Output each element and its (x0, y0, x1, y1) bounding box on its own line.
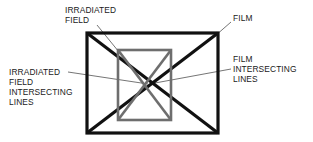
label-film-intersecting-lines-line-2: INTERSECTING (233, 64, 297, 74)
label-irradiated-field-intersecting-lines-line-4: LINES (9, 97, 34, 107)
label-irradiated-field-intersecting-lines-line-2: FIELD (9, 77, 33, 87)
label-film-intersecting-lines-line-1: FILM (233, 54, 252, 64)
label-irradiated-field-line-2: FIELD (65, 15, 89, 25)
alignment-diagram-figure: IRRADIATED FIELD IRRADIATED FIELD INTERS… (0, 0, 313, 142)
label-film-intersecting-lines-line-3: LINES (233, 74, 258, 84)
label-irradiated-field-intersecting-lines-line-1: IRRADIATED (9, 67, 60, 77)
diagram-root: IRRADIATED FIELD IRRADIATED FIELD INTERS… (0, 0, 313, 142)
label-irradiated-field-line-1: IRRADIATED (65, 5, 116, 15)
label-irradiated-field-intersecting-lines-line-3: INTERSECTING (9, 87, 73, 97)
label-film: FILM (233, 13, 252, 23)
label-film-line-1: FILM (233, 13, 252, 23)
